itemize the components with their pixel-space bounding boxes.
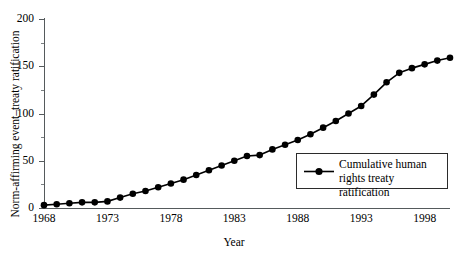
data-point-marker [168, 180, 175, 187]
data-point-marker [155, 184, 162, 191]
data-point-marker [104, 198, 111, 205]
data-point-marker [345, 110, 352, 117]
chart-legend: Cumulative human rights treaty ratificat… [296, 153, 448, 189]
data-point-marker [333, 118, 340, 125]
data-point-marker [231, 157, 238, 164]
data-series-layer [0, 0, 459, 261]
data-point-marker [447, 54, 454, 61]
data-point-marker [193, 172, 200, 179]
data-point-marker [218, 162, 225, 169]
data-point-marker [79, 199, 86, 206]
data-point-marker [244, 153, 251, 160]
legend-label: Cumulative human rights treaty ratificat… [339, 157, 445, 199]
data-point-marker [269, 146, 276, 153]
data-point-marker [294, 137, 301, 144]
legend-label-line2: rights treaty ratification [339, 171, 445, 199]
data-point-marker [434, 57, 441, 64]
data-point-marker [91, 199, 98, 206]
data-point-marker [66, 200, 73, 207]
legend-symbol-icon [303, 165, 335, 178]
x-axis-title: Year [44, 236, 424, 248]
data-point-marker [117, 194, 124, 201]
chart-figure: Norm-affirming event–treaty ratification… [0, 0, 459, 261]
data-point-marker [371, 91, 378, 98]
data-point-marker [130, 191, 137, 198]
data-point-marker [396, 70, 403, 77]
data-point-marker [206, 167, 213, 174]
data-point-marker [142, 188, 149, 195]
data-point-marker [256, 152, 263, 159]
data-point-marker [180, 176, 187, 183]
data-point-marker [358, 103, 365, 110]
data-point-marker [320, 124, 327, 131]
data-point-marker [307, 131, 314, 138]
data-point-marker [282, 141, 289, 148]
data-point-marker [409, 65, 416, 72]
data-point-marker [421, 61, 428, 68]
legend-label-line1: Cumulative human [339, 157, 445, 171]
data-point-marker [53, 201, 60, 208]
data-point-marker [41, 202, 48, 209]
data-point-marker [383, 79, 390, 86]
